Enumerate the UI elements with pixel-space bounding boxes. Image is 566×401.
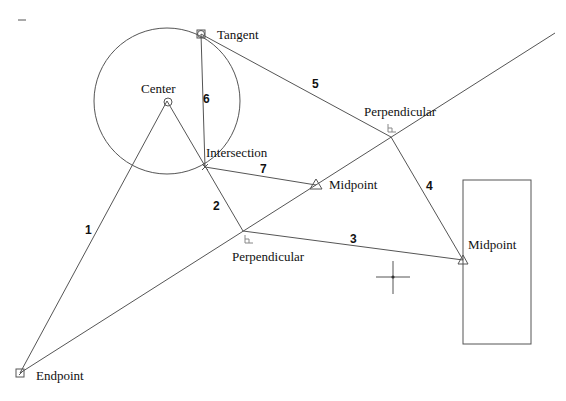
segment-label-7: 7 xyxy=(260,162,267,176)
crosshair-cursor-icon xyxy=(376,261,410,294)
segment-label-6: 6 xyxy=(203,92,210,106)
perpendicular-lower-snap-marker-icon xyxy=(245,235,253,243)
segment-4 xyxy=(391,137,463,260)
long-reference-line xyxy=(20,33,555,373)
segment-1 xyxy=(20,101,167,373)
intersection-label: Intersection xyxy=(206,145,268,160)
perpendicular-upper-label: Perpendicular xyxy=(364,104,437,119)
segment-label-4: 4 xyxy=(426,179,433,193)
segment-5 xyxy=(201,34,391,137)
center-label: Center xyxy=(141,81,176,96)
snap-diagram-canvas[interactable]: Center Tangent Intersection Perpendicula… xyxy=(0,0,566,401)
segment-label-2: 2 xyxy=(213,199,220,213)
midpoint-rect-label: Midpoint xyxy=(468,237,517,252)
perpendicular-upper-snap-marker-icon xyxy=(388,124,396,132)
midpoint-line-label: Midpoint xyxy=(329,177,378,192)
tangent-label: Tangent xyxy=(217,27,259,42)
segment-label-1: 1 xyxy=(85,223,92,237)
rectangle-shape xyxy=(463,180,531,344)
endpoint-label: Endpoint xyxy=(36,368,84,383)
segment-label-5: 5 xyxy=(312,77,319,91)
segment-label-3: 3 xyxy=(350,232,357,246)
perpendicular-lower-label: Perpendicular xyxy=(232,249,305,264)
